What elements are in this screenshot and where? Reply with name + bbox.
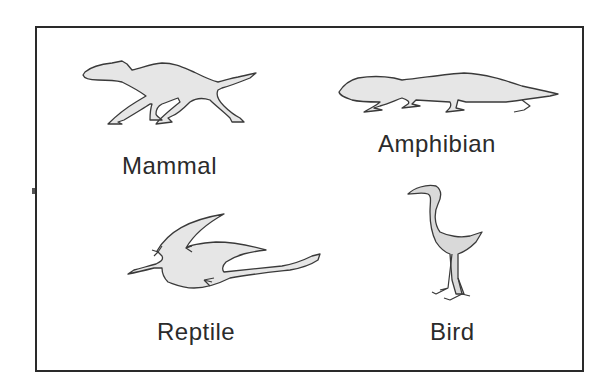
bird-silhouette-icon — [404, 182, 494, 304]
label-mammal: Mammal — [122, 152, 217, 180]
label-reptile: Reptile — [157, 318, 235, 346]
amphibian-silhouette-icon — [336, 68, 566, 122]
mammal-silhouette-icon — [80, 58, 260, 143]
pterosaur-silhouette-icon — [124, 212, 329, 312]
margin-mark — [32, 188, 35, 194]
label-bird: Bird — [430, 318, 475, 346]
label-amphibian: Amphibian — [378, 130, 496, 158]
